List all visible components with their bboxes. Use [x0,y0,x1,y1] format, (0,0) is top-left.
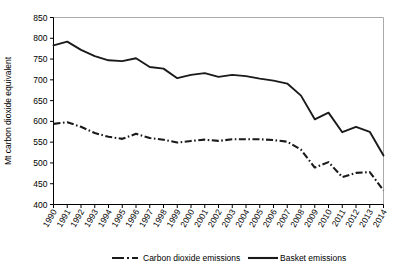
x-tick-label: 2010 [316,207,334,229]
y-axis-title-text: Mt carbon dioxide equivalent [3,56,13,165]
y-tick-label: 550 [33,137,47,147]
plot-frame [54,18,384,205]
y-tick-label: 750 [33,54,47,64]
plot-axes [54,18,384,205]
legend-label-carbon-dioxide: Carbon dioxide emissions [143,253,240,263]
x-axis-ticks [54,205,384,209]
chart-legend: Carbon dioxide emissionsBasket emissions [112,253,346,263]
x-axis-tick-labels: 1990199119921993199419951996199719981999… [41,207,389,229]
y-tick-label: 650 [33,96,47,106]
y-tick-label: 850 [33,13,47,23]
plot-frame-box [54,18,384,205]
y-tick-label: 450 [33,179,47,189]
y-axis-tick-labels: 400450500550600650700750800850 [33,13,47,210]
y-axis-title: Mt carbon dioxide equivalent [3,56,13,165]
legend-label-basket: Basket emissions [280,253,346,263]
y-tick-label: 700 [33,75,47,85]
x-tick-label: 2014 [371,207,389,229]
y-tick-label: 600 [33,116,47,126]
y-tick-label: 400 [33,200,47,210]
emissions-line-chart: 400450500550600650700750800850 199019911… [0,0,398,274]
series-line-carbon-dioxide [54,122,384,190]
y-tick-label: 500 [33,158,47,168]
series-line-basket [54,42,384,156]
chart-container: 400450500550600650700750800850 199019911… [0,0,398,274]
y-tick-label: 800 [33,33,47,43]
data-series-group [54,42,384,191]
